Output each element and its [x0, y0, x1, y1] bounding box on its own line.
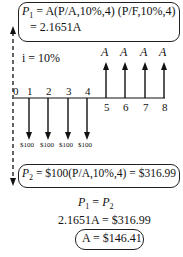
inflow-label-7: A [140, 45, 147, 60]
outflow-label-1: $100 [20, 141, 34, 149]
equation-solve: 2.1651A = $316.99 [58, 213, 151, 228]
outflow-label-2: $100 [40, 141, 54, 149]
result-value: A = $146.41 [82, 231, 142, 246]
period-3: 3 [66, 85, 72, 97]
inflow-label-6: A [120, 45, 127, 60]
inflow-label-5: A [101, 45, 108, 60]
period-5: 5 [104, 101, 110, 113]
outflow-label-3: $100 [59, 141, 73, 149]
period-6: 6 [123, 101, 129, 113]
period-4: 4 [85, 85, 91, 97]
outflow-label-4: $100 [78, 141, 92, 149]
period-2: 2 [46, 85, 52, 97]
inflow-label-8: A [159, 45, 166, 60]
equality-p1-p2: P1 = P2 [78, 195, 113, 211]
period-0: 0 [13, 85, 19, 97]
period-7: 7 [143, 101, 149, 113]
p2-formula: P2 = $100(P/A,10%,4) = $316.99 [22, 167, 176, 182]
period-8: 8 [162, 101, 168, 113]
period-1: 1 [27, 85, 33, 97]
